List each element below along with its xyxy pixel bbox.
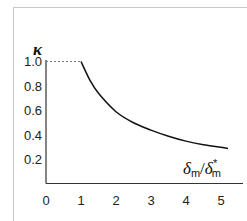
kappa-curve bbox=[81, 62, 228, 149]
y-tick-label: 0.8 bbox=[24, 79, 42, 94]
x-tick-label: 1 bbox=[77, 193, 84, 208]
x-axis-label: δm/δm* bbox=[183, 157, 221, 179]
x-tick-label: 5 bbox=[217, 193, 224, 208]
x-tick-label: 3 bbox=[147, 193, 154, 208]
x-tick-label: 2 bbox=[112, 193, 119, 208]
y-tick-label: 0.6 bbox=[24, 103, 42, 118]
y-tick-labels: 0.20.40.60.81.0 bbox=[24, 54, 42, 167]
y-tick-label: 0.2 bbox=[24, 152, 42, 167]
x-label-den-sup: * bbox=[213, 157, 218, 169]
y-tick-label: 0.4 bbox=[24, 128, 42, 143]
chart: 012345 0.20.40.60.81.0 κ δm/δm* bbox=[0, 0, 247, 221]
x-label-sub: m bbox=[191, 167, 200, 179]
x-tick-label: 4 bbox=[182, 193, 189, 208]
y-axis-label: κ bbox=[33, 40, 43, 59]
x-tick-labels: 012345 bbox=[42, 193, 224, 208]
x-tick-label: 0 bbox=[42, 193, 49, 208]
